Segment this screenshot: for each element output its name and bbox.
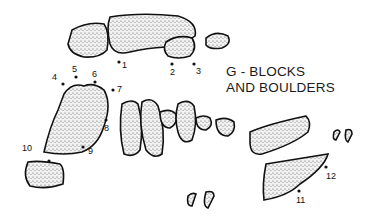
block-right-slant (250, 116, 310, 154)
point-label-7: 7 (117, 84, 122, 94)
diagram-title-line2: AND BOULDERS (226, 80, 335, 95)
boulder-mid-3 (160, 110, 176, 128)
piece-small-2 (345, 130, 352, 143)
boulder-mid-1 (120, 101, 141, 155)
boulder-top-right-2 (206, 33, 229, 48)
block-bottom-left (25, 161, 63, 187)
piece-small-3 (188, 193, 197, 206)
point-label-3: 3 (196, 66, 201, 76)
boulder-top-left (68, 23, 108, 57)
point-label-2: 2 (170, 67, 175, 77)
point-label-9: 9 (88, 146, 93, 156)
block-left-tall (44, 85, 108, 154)
piece-small-1 (333, 130, 340, 140)
boulder-mid-2 (141, 100, 164, 157)
point-label-4: 4 (52, 72, 57, 82)
point-label-8: 8 (104, 123, 109, 133)
point-label-6: 6 (92, 69, 97, 79)
block-right-triangle (263, 154, 328, 200)
diagram-title-line1: G - BLOCKS (226, 64, 305, 79)
point-label-1: 1 (122, 60, 127, 70)
boulder-mid-6 (216, 118, 234, 136)
point-label-10: 10 (22, 143, 32, 153)
blocks-diagram (0, 0, 367, 223)
boulder-mid-4 (176, 101, 196, 141)
point-label-11: 11 (296, 195, 305, 205)
boulder-top-right-1 (164, 37, 194, 58)
piece-small-4 (204, 192, 214, 209)
boulder-mid-5 (196, 116, 211, 130)
point-label-5: 5 (72, 64, 77, 74)
point-label-12: 12 (326, 171, 336, 181)
